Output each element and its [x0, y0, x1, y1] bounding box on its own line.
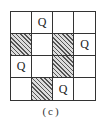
- chess-board: QQQQ: [10, 11, 96, 101]
- empty-cell: [74, 56, 95, 78]
- empty-cell: [11, 12, 32, 34]
- empty-cell: [53, 12, 74, 34]
- queen-label: Q: [38, 15, 47, 30]
- queen-cell: Q: [74, 34, 95, 56]
- empty-cell: [32, 56, 53, 78]
- empty-cell: [32, 34, 53, 56]
- queen-label: Q: [59, 82, 68, 97]
- hatched-cell: [11, 34, 32, 56]
- hatched-cell: [32, 78, 53, 100]
- queen-label: Q: [17, 59, 26, 74]
- empty-cell: [74, 12, 95, 34]
- queen-cell: Q: [53, 78, 74, 100]
- queen-cell: Q: [32, 12, 53, 34]
- queen-cell: Q: [11, 56, 32, 78]
- hatched-cell: [53, 34, 74, 56]
- empty-cell: [11, 78, 32, 100]
- empty-cell: [74, 78, 95, 100]
- queen-label: Q: [80, 37, 89, 52]
- hatched-cell: [53, 56, 74, 78]
- figure-caption: (c): [0, 105, 103, 117]
